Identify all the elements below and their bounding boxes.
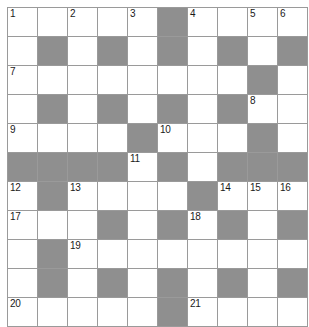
cell-number: 2 <box>70 8 75 20</box>
crossword-block-cell <box>98 95 128 124</box>
crossword-cell[interactable]: 17 <box>8 211 38 240</box>
crossword-cell[interactable] <box>8 95 38 124</box>
crossword-cell[interactable] <box>68 66 98 95</box>
crossword-cell[interactable] <box>158 66 188 95</box>
crossword-cell[interactable] <box>188 66 218 95</box>
crossword-cell[interactable] <box>158 182 188 211</box>
crossword-cell[interactable] <box>38 124 68 153</box>
crossword-cell[interactable]: 11 <box>128 153 158 182</box>
crossword-cell[interactable]: 5 <box>248 8 278 37</box>
crossword-cell[interactable] <box>218 66 248 95</box>
crossword-cell[interactable] <box>68 298 98 327</box>
crossword-cell[interactable] <box>278 240 308 269</box>
crossword-cell[interactable] <box>188 269 218 298</box>
crossword-cell[interactable] <box>248 211 278 240</box>
crossword-block-cell <box>8 153 38 182</box>
crossword-block-cell <box>188 182 218 211</box>
crossword-cell[interactable] <box>98 298 128 327</box>
crossword-cell[interactable] <box>218 8 248 37</box>
crossword-cell[interactable] <box>188 240 218 269</box>
crossword-cell[interactable] <box>8 240 38 269</box>
crossword-cell[interactable] <box>38 211 68 240</box>
crossword-cell[interactable] <box>188 153 218 182</box>
crossword-cell[interactable] <box>8 269 38 298</box>
crossword-cell[interactable]: 19 <box>68 240 98 269</box>
cell-number: 10 <box>160 124 171 136</box>
crossword-cell[interactable]: 20 <box>8 298 38 327</box>
crossword-block-cell <box>38 95 68 124</box>
crossword-cell[interactable]: 1 <box>8 8 38 37</box>
crossword-cell[interactable]: 9 <box>8 124 38 153</box>
crossword-block-cell <box>248 66 278 95</box>
crossword-cell[interactable]: 10 <box>158 124 188 153</box>
crossword-cell[interactable] <box>68 37 98 66</box>
cell-number: 20 <box>10 298 21 310</box>
crossword-cell[interactable] <box>38 66 68 95</box>
crossword-cell[interactable]: 3 <box>128 8 158 37</box>
crossword-cell[interactable] <box>248 298 278 327</box>
crossword-block-cell <box>218 95 248 124</box>
crossword-block-cell <box>278 37 308 66</box>
crossword-cell[interactable]: 7 <box>8 66 38 95</box>
crossword-block-cell <box>38 182 68 211</box>
crossword-cell[interactable] <box>278 95 308 124</box>
crossword-row <box>8 269 308 298</box>
crossword-cell[interactable] <box>128 298 158 327</box>
crossword-cell[interactable] <box>68 124 98 153</box>
cell-number: 3 <box>130 8 135 20</box>
crossword-cell[interactable] <box>38 8 68 37</box>
crossword-cell[interactable] <box>98 240 128 269</box>
crossword-cell[interactable]: 12 <box>8 182 38 211</box>
crossword-block-cell <box>248 124 278 153</box>
crossword-block-cell <box>158 95 188 124</box>
cell-number: 8 <box>250 95 255 107</box>
crossword-cell[interactable] <box>128 37 158 66</box>
crossword-block-cell <box>218 211 248 240</box>
crossword-cell[interactable] <box>128 182 158 211</box>
crossword-cell[interactable] <box>68 211 98 240</box>
crossword-grid[interactable]: 123456789101112131415161718192021 <box>7 7 308 327</box>
crossword-block-cell <box>218 269 248 298</box>
crossword-cell[interactable]: 18 <box>188 211 218 240</box>
crossword-cell[interactable] <box>218 240 248 269</box>
crossword-cell[interactable]: 6 <box>278 8 308 37</box>
crossword-cell[interactable] <box>158 240 188 269</box>
crossword-block-cell <box>38 269 68 298</box>
crossword-cell[interactable] <box>278 298 308 327</box>
crossword-cell[interactable] <box>68 95 98 124</box>
crossword-cell[interactable] <box>98 182 128 211</box>
crossword-cell[interactable] <box>98 8 128 37</box>
crossword-cell[interactable]: 14 <box>218 182 248 211</box>
crossword-cell[interactable]: 21 <box>188 298 218 327</box>
crossword-cell[interactable] <box>98 66 128 95</box>
crossword-cell[interactable] <box>38 298 68 327</box>
cell-number: 13 <box>70 182 81 194</box>
crossword-cell[interactable] <box>128 240 158 269</box>
crossword-block-cell <box>158 37 188 66</box>
crossword-cell[interactable] <box>218 298 248 327</box>
crossword-cell[interactable] <box>128 269 158 298</box>
crossword-cell[interactable] <box>248 269 278 298</box>
crossword-cell[interactable]: 16 <box>278 182 308 211</box>
crossword-cell[interactable]: 4 <box>188 8 218 37</box>
crossword-cell[interactable] <box>248 240 278 269</box>
crossword-cell[interactable] <box>218 124 248 153</box>
crossword-cell[interactable] <box>188 95 218 124</box>
crossword-cell[interactable] <box>188 124 218 153</box>
crossword-cell[interactable] <box>188 37 218 66</box>
crossword-cell[interactable] <box>278 124 308 153</box>
crossword-cell[interactable] <box>128 66 158 95</box>
crossword-cell[interactable]: 2 <box>68 8 98 37</box>
crossword-cell[interactable]: 15 <box>248 182 278 211</box>
crossword-cell[interactable]: 13 <box>68 182 98 211</box>
crossword-cell[interactable] <box>248 37 278 66</box>
crossword-cell[interactable] <box>128 95 158 124</box>
crossword-grid-body: 123456789101112131415161718192021 <box>8 8 308 327</box>
crossword-cell[interactable] <box>128 211 158 240</box>
crossword-cell[interactable] <box>98 124 128 153</box>
crossword-cell[interactable] <box>278 66 308 95</box>
crossword-row: 1718 <box>8 211 308 240</box>
crossword-cell[interactable]: 8 <box>248 95 278 124</box>
crossword-cell[interactable] <box>8 37 38 66</box>
crossword-cell[interactable] <box>68 269 98 298</box>
